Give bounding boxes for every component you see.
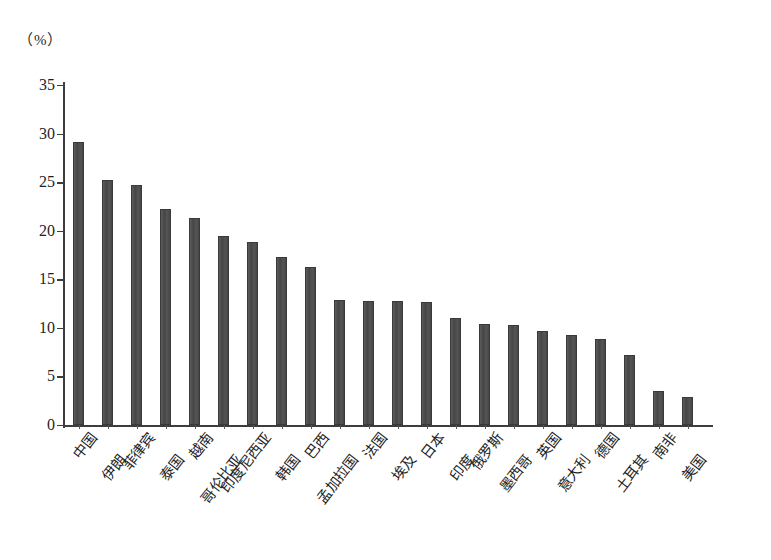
y-tick-mark bbox=[57, 85, 63, 86]
bar bbox=[595, 339, 606, 425]
bar-slot bbox=[644, 85, 673, 425]
bar bbox=[131, 185, 142, 425]
bar-slot bbox=[615, 85, 644, 425]
bar-slot bbox=[180, 85, 209, 425]
x-tick-label: 意大利 bbox=[555, 453, 593, 495]
y-tick-mark bbox=[57, 182, 63, 183]
x-tick-label: 日本 bbox=[419, 431, 448, 462]
x-tick-label: 法国 bbox=[361, 431, 390, 462]
bar bbox=[392, 301, 403, 425]
bar-slot bbox=[238, 85, 267, 425]
x-tick-label: 墨西哥 bbox=[497, 453, 535, 495]
unit-label: （%） bbox=[18, 28, 64, 49]
x-tick-label: 孟加拉国 bbox=[314, 453, 360, 506]
y-tick-mark bbox=[57, 134, 63, 135]
bar bbox=[450, 318, 461, 425]
x-tick-label: 韩国 bbox=[274, 453, 303, 484]
bar-slot bbox=[499, 85, 528, 425]
bar-slot bbox=[470, 85, 499, 425]
bar bbox=[276, 257, 287, 425]
bar-slot bbox=[93, 85, 122, 425]
bar-slot bbox=[586, 85, 615, 425]
bar bbox=[363, 301, 374, 425]
x-tick-label: 英国 bbox=[535, 431, 564, 462]
y-tick-label: 10 bbox=[39, 320, 55, 336]
bar bbox=[160, 209, 171, 425]
bar-slot bbox=[122, 85, 151, 425]
y-tick-label: 15 bbox=[39, 271, 55, 287]
bar-slot bbox=[209, 85, 238, 425]
x-tick-label: 巴西 bbox=[303, 431, 332, 462]
bar-slot bbox=[412, 85, 441, 425]
x-tick-label: 美国 bbox=[680, 453, 709, 484]
bar bbox=[334, 300, 345, 425]
bar bbox=[73, 142, 84, 425]
bar bbox=[624, 355, 635, 425]
bar-slot bbox=[383, 85, 412, 425]
y-tick-label: 5 bbox=[47, 368, 55, 384]
bar bbox=[537, 331, 548, 425]
bar-slot bbox=[354, 85, 383, 425]
y-tick-mark bbox=[57, 328, 63, 329]
bar bbox=[479, 324, 490, 425]
y-tick-label: 25 bbox=[39, 174, 55, 190]
bar-slot bbox=[267, 85, 296, 425]
bar bbox=[508, 325, 519, 425]
bar bbox=[218, 236, 229, 425]
bar-slot bbox=[325, 85, 354, 425]
x-tick-label: 埃及 bbox=[390, 453, 419, 484]
bar-chart: （%） 05101520253035 中国伊朗菲律宾泰国越南哥伦比亚印度尼西亚韩… bbox=[0, 0, 771, 560]
x-axis-line bbox=[63, 425, 713, 427]
y-tick-mark bbox=[57, 231, 63, 232]
bar-slot bbox=[557, 85, 586, 425]
bar bbox=[247, 242, 258, 425]
x-tick-label: 南非 bbox=[651, 431, 680, 462]
x-tick-label: 越南 bbox=[187, 431, 216, 462]
bar bbox=[566, 335, 577, 425]
bar-slot bbox=[673, 85, 702, 425]
plot-area: 05101520253035 bbox=[63, 85, 711, 425]
bar bbox=[421, 302, 432, 425]
y-tick-label: 20 bbox=[39, 223, 55, 239]
bar bbox=[305, 267, 316, 425]
bar bbox=[189, 218, 200, 425]
bar-slot bbox=[441, 85, 470, 425]
y-tick-label: 0 bbox=[47, 417, 55, 433]
bar bbox=[682, 397, 693, 425]
bar-slot bbox=[528, 85, 557, 425]
x-tick-label: 中国 bbox=[71, 431, 100, 462]
y-tick-label: 30 bbox=[39, 126, 55, 142]
x-tick-label: 俄罗斯 bbox=[468, 431, 506, 473]
x-tick-label: 德国 bbox=[593, 431, 622, 462]
bar-slot bbox=[296, 85, 325, 425]
bar-slot bbox=[151, 85, 180, 425]
bar bbox=[102, 180, 113, 425]
y-tick-mark bbox=[57, 279, 63, 280]
x-axis-labels: 中国伊朗菲律宾泰国越南哥伦比亚印度尼西亚韩国巴西孟加拉国法国埃及日本印度俄罗斯墨… bbox=[63, 429, 713, 554]
bar-slot bbox=[64, 85, 93, 425]
y-tick-label: 35 bbox=[39, 77, 55, 93]
y-tick-mark bbox=[57, 425, 63, 426]
x-tick-label: 泰国 bbox=[158, 453, 187, 484]
bar bbox=[653, 391, 664, 425]
y-tick-mark bbox=[57, 376, 63, 377]
x-tick-label: 菲律宾 bbox=[120, 431, 158, 473]
x-tick-label: 土耳其 bbox=[613, 453, 651, 495]
